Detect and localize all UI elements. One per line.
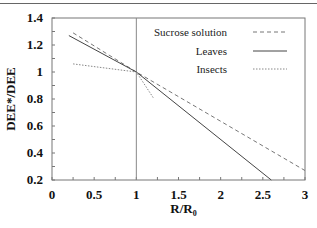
x-tick-label: 0.5: [86, 187, 103, 202]
y-tick-label: 0.2: [27, 172, 43, 187]
x-tick-label: 3: [302, 187, 309, 202]
series-line-sucrose-solution: [73, 33, 305, 171]
plot-frame: [52, 18, 305, 180]
legend-label: Insects: [196, 63, 227, 75]
y-tick-label: 0.8: [27, 91, 44, 106]
y-tick-label: 0.4: [27, 145, 44, 160]
x-tick-label: 1: [133, 187, 140, 202]
x-tick-label: 2: [217, 187, 224, 202]
y-axis-label: DEE*/DEE: [3, 67, 18, 131]
x-tick-label: 2.5: [255, 187, 272, 202]
y-tick-label: 1: [37, 64, 44, 79]
legend-label: Leaves: [196, 45, 227, 57]
x-axis-label: R/R0: [170, 201, 196, 218]
series-line-insects: [73, 64, 153, 98]
chart: 00.511.522.530.20.40.60.811.21.4R/R0DEE*…: [0, 0, 317, 228]
y-tick-label: 0.6: [27, 118, 44, 133]
series-line-leaves: [69, 36, 271, 180]
x-tick-label: 1.5: [170, 187, 187, 202]
y-tick-label: 1.2: [27, 37, 43, 52]
legend-label: Sucrose solution: [154, 26, 228, 38]
y-tick-label: 1.4: [27, 10, 44, 25]
x-tick-label: 0: [49, 187, 56, 202]
